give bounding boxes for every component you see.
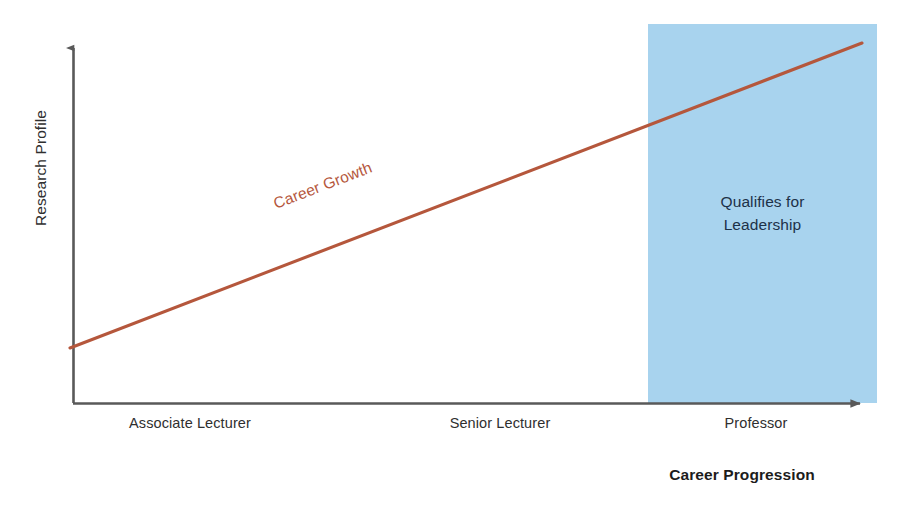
chart-canvas: [0, 0, 912, 515]
x-axis-title: Career Progression: [612, 466, 872, 484]
region-label-line-2: Leadership: [648, 213, 877, 236]
x-category-senior-lecturer: Senior Lecturer: [400, 415, 600, 431]
x-category-associate-lecturer: Associate Lecturer: [90, 415, 290, 431]
x-category-professor: Professor: [656, 415, 856, 431]
y-axis-title: Research Profile: [26, 38, 56, 298]
career-progression-chart: Research Profile Career Growth Qualifies…: [0, 0, 912, 515]
region-label-line-1: Qualifies for: [648, 190, 877, 213]
qualifies-for-leadership-label: Qualifies for Leadership: [648, 190, 877, 236]
